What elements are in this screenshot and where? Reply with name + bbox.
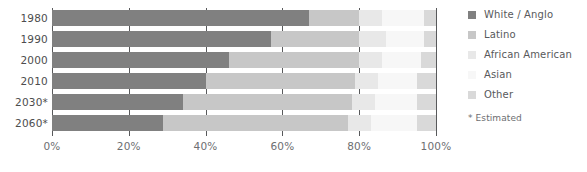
bar-segment [417, 94, 436, 110]
legend-item[interactable]: White / Anglo [468, 8, 587, 28]
table-row: 2060* [0, 115, 470, 131]
bar-segment [352, 94, 375, 110]
legend-swatch-icon [468, 11, 476, 19]
legend-item-label: Asian [484, 68, 512, 81]
table-row: 2000 [0, 52, 470, 68]
chart-legend: White / AngloLatinoAfrican AmericanAsian… [468, 8, 587, 123]
legend-item-label: African American [484, 48, 572, 61]
legend-swatch-icon [468, 71, 476, 79]
stacked-bar [52, 10, 436, 26]
bar-segment [417, 115, 436, 131]
y-axis-label-2030: 2030* [0, 94, 48, 110]
stacked-bar [52, 31, 436, 47]
bar-segment [359, 31, 386, 47]
bar-segment [52, 52, 229, 68]
y-axis-label-2060: 2060* [0, 115, 48, 131]
stacked-bar [52, 115, 436, 131]
bar-segment [52, 94, 183, 110]
stacked-bar [52, 94, 436, 110]
y-axis-label-1980: 1980 [0, 10, 48, 26]
bar-segment [206, 73, 356, 89]
legend-item[interactable]: Latino [468, 28, 587, 48]
stacked-bar [52, 52, 436, 68]
bar-segment [378, 73, 416, 89]
bar-segment [359, 52, 382, 68]
x-tick-label-40: 40% [176, 140, 236, 152]
bar-segment [229, 52, 360, 68]
bar-segment [424, 10, 436, 26]
x-tick-label-80: 80% [329, 140, 389, 152]
stacked-bar [52, 73, 436, 89]
bar-segment [359, 10, 382, 26]
x-tick-label-60: 60% [252, 140, 312, 152]
bar-segment [163, 115, 347, 131]
bar-segment [417, 73, 436, 89]
y-axis-label-1990: 1990 [0, 31, 48, 47]
bar-segment [424, 31, 436, 47]
table-row: 2010 [0, 73, 470, 89]
bar-segment [183, 94, 352, 110]
x-tick-label-20: 20% [99, 140, 159, 152]
bar-segment [382, 52, 420, 68]
legend-footnote: * Estimated [468, 113, 587, 123]
legend-item[interactable]: Asian [468, 68, 587, 88]
legend-item[interactable]: Other [468, 88, 587, 108]
stacked-bar-chart: 19801990200020102030*2060* 0%20%40%60%80… [0, 0, 587, 172]
legend-item-label: Other [484, 88, 513, 101]
x-axis-tick-labels: 0%20%40%60%80%100% [0, 140, 470, 160]
legend-item-label: White / Anglo [484, 8, 553, 21]
x-tick-label-100: 100% [406, 140, 466, 152]
x-tick-label-0: 0% [22, 140, 82, 152]
bar-segment [421, 52, 436, 68]
bar-segment [382, 10, 424, 26]
table-row: 2030* [0, 94, 470, 110]
bar-segment [371, 115, 417, 131]
bar-segment [355, 73, 378, 89]
bar-segment [309, 10, 359, 26]
table-row: 1990 [0, 31, 470, 47]
bar-segment [52, 73, 206, 89]
bar-segment [375, 94, 417, 110]
bar-segment [348, 115, 371, 131]
y-axis-label-2010: 2010 [0, 73, 48, 89]
legend-item[interactable]: African American [468, 48, 587, 68]
y-axis-label-2000: 2000 [0, 52, 48, 68]
legend-swatch-icon [468, 91, 476, 99]
table-row: 1980 [0, 10, 470, 26]
legend-swatch-icon [468, 31, 476, 39]
legend-item-label: Latino [484, 28, 516, 41]
bar-segment [52, 10, 309, 26]
plot-area: 19801990200020102030*2060* 0%20%40%60%80… [0, 0, 470, 172]
bar-segment [52, 31, 271, 47]
bar-segment [271, 31, 359, 47]
legend-items: White / AngloLatinoAfrican AmericanAsian… [468, 8, 587, 108]
legend-swatch-icon [468, 51, 476, 59]
bar-segment [52, 115, 163, 131]
bar-segment [386, 31, 424, 47]
